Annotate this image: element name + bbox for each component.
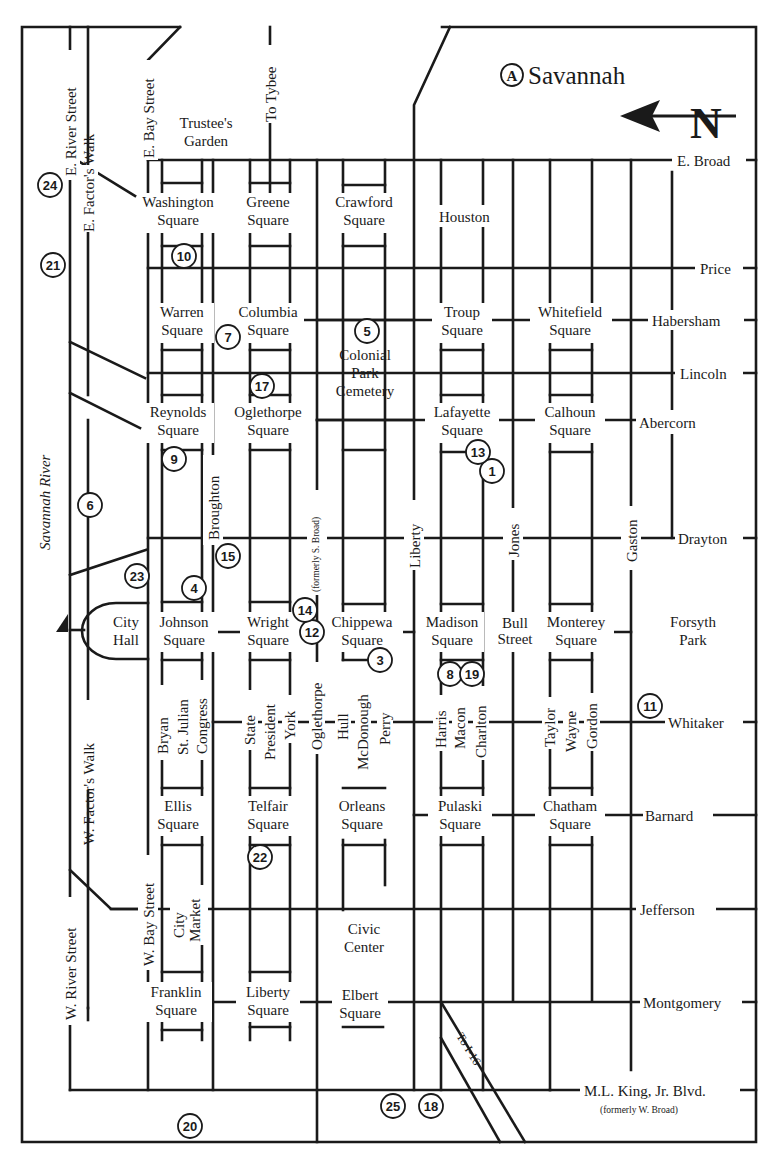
street-label-state: State [242, 715, 258, 745]
street-label-jones: Jones [506, 524, 522, 557]
street-label-york: York [282, 710, 298, 740]
svg-text:18: 18 [424, 1099, 438, 1114]
marker-20[interactable]: 20 [178, 1114, 202, 1138]
marker-9[interactable]: 9 [162, 447, 186, 471]
marker-23[interactable]: 23 [125, 564, 149, 588]
street-note-formerly-s-broad: (formerly S. Broad) [311, 517, 322, 592]
marker-17[interactable]: 17 [250, 374, 274, 398]
street-label-montgomery: Montgomery [643, 995, 722, 1011]
savannah-map: A Savannah N E. Broad Price Habersham Li… [0, 0, 771, 1165]
marker-5[interactable]: 5 [355, 319, 379, 343]
street-label-houston: Houston [439, 209, 490, 225]
street-label-st-julian: St. Julian [175, 699, 191, 755]
street-label-mcdonough: McDonough [355, 694, 371, 770]
svg-text:22: 22 [253, 850, 267, 865]
street-label-liberty: Liberty [407, 523, 423, 568]
marker-15[interactable]: 15 [216, 544, 240, 568]
street-label-lincoln: Lincoln [680, 366, 727, 382]
marker-12[interactable]: 12 [300, 620, 324, 644]
title-badge: A [507, 68, 518, 84]
svg-text:1: 1 [488, 464, 495, 479]
street-label-e-broad: E. Broad [677, 153, 731, 169]
svg-text:7: 7 [224, 330, 231, 345]
svg-text:5: 5 [363, 324, 370, 339]
svg-text:13: 13 [471, 445, 485, 460]
street-label-taylor: Taylor [542, 708, 558, 747]
street-label-harris: Harris [433, 710, 449, 748]
street-label-w-bay: W. Bay Street [141, 882, 157, 966]
marker-18[interactable]: 18 [419, 1094, 443, 1118]
street-label-to-tybee: To Tybee [263, 66, 279, 122]
street-label-e-river: E. River Street [63, 86, 79, 176]
marker-4[interactable]: 4 [182, 576, 206, 600]
title-text: Savannah [528, 62, 626, 89]
marker-3[interactable]: 3 [368, 648, 392, 672]
street-label-perry: Perry [377, 712, 393, 745]
svg-text:3: 3 [376, 653, 383, 668]
street-label-ml-king: M.L. King, Jr. Blvd. [584, 1083, 706, 1099]
street-label-w-factors-walk: W. Factor's Walk [81, 743, 97, 845]
street-label-oglethorpe: Oglethorpe [309, 682, 325, 750]
marker-11[interactable]: 11 [638, 694, 662, 718]
svg-text:21: 21 [46, 258, 60, 273]
marker-6[interactable]: 6 [78, 493, 102, 517]
svg-text:15: 15 [221, 549, 235, 564]
street-note-formerly-w-broad: (formerly W. Broad) [600, 1105, 678, 1116]
marker-22[interactable]: 22 [248, 845, 272, 869]
street-label-gordon: Gordon [584, 703, 600, 749]
svg-text:9: 9 [170, 452, 177, 467]
svg-text:25: 25 [386, 1099, 400, 1114]
street-label-jefferson: Jefferson [640, 902, 695, 918]
street-label-price: Price [700, 261, 731, 277]
street-label-broughton: Broughton [206, 475, 222, 540]
street-label-habersham: Habersham [652, 313, 721, 329]
marker-21[interactable]: 21 [41, 253, 65, 277]
marker-7[interactable]: 7 [216, 325, 240, 349]
street-label-e-factors-walk: E. Factor's Walk [81, 133, 97, 232]
svg-text:20: 20 [183, 1119, 197, 1134]
street-label-charlton: Charlton [473, 705, 489, 758]
street-label-drayton: Drayton [678, 531, 728, 547]
marker-25[interactable]: 25 [381, 1094, 405, 1118]
svg-text:6: 6 [86, 498, 93, 513]
street-label-president: President [262, 703, 278, 760]
north-label: N [690, 99, 722, 148]
marker-14[interactable]: 14 [293, 598, 317, 622]
street-label-barnard: Barnard [645, 808, 694, 824]
marker-19[interactable]: 19 [460, 662, 484, 686]
street-label-abercorn: Abercorn [639, 415, 696, 431]
svg-text:17: 17 [255, 379, 269, 394]
svg-text:8: 8 [446, 667, 453, 682]
svg-text:10: 10 [177, 249, 191, 264]
svg-text:11: 11 [643, 699, 657, 714]
marker-8[interactable]: 8 [438, 662, 462, 686]
marker-24[interactable]: 24 [38, 173, 62, 197]
svg-text:14: 14 [298, 603, 313, 618]
water-label-savannah-river: Savannah River [37, 454, 53, 550]
street-label-gaston: Gaston [624, 519, 640, 562]
street-label-hull: Hull [335, 713, 351, 740]
svg-text:12: 12 [305, 625, 319, 640]
street-label-macon: Macon [452, 707, 468, 749]
street-label-wayne: Wayne [563, 710, 579, 752]
svg-text:23: 23 [130, 569, 144, 584]
street-label-w-river: W. River Street [63, 927, 79, 1020]
svg-text:24: 24 [43, 178, 58, 193]
marker-13[interactable]: 13 [466, 440, 490, 464]
street-label-e-bay: E. Bay Street [141, 78, 157, 158]
svg-text:4: 4 [190, 581, 198, 596]
svg-text:19: 19 [465, 667, 479, 682]
street-label-bryan: Bryan [155, 717, 171, 754]
marker-10[interactable]: 10 [172, 244, 196, 268]
street-label-congress: Congress [194, 698, 210, 754]
street-label-whitaker: Whitaker [668, 715, 724, 731]
